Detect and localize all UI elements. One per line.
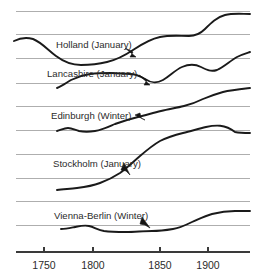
x-axis-label-1850: 1850 [148,259,172,271]
series-label-edinburgh: Edinburgh (Winter) [51,110,132,121]
series-curve-holland [14,14,250,65]
series-label-vienna-berlin: Vienna-Berlin (Winter) [54,210,148,221]
chart-canvas: Holland (January) Lancashire (January) E… [0,0,265,279]
series-label-lancashire: Lancashire (January) [47,68,137,79]
x-axis-label-1750: 1750 [32,259,56,271]
x-axis-group: 1750 1800 1850 1900 [16,247,250,271]
series-label-holland: Holland (January) [56,39,132,50]
climate-series-chart: Holland (January) Lancashire (January) E… [0,0,265,279]
x-axis-label-1800: 1800 [81,259,105,271]
series-label-stockholm: Stockholm (January) [53,158,141,169]
series-curves-group [14,14,250,232]
x-axis-label-1900: 1900 [196,259,220,271]
